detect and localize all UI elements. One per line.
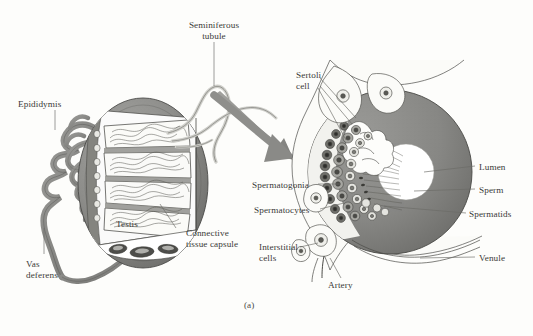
label-vas-deferens: Vas deferens <box>26 259 58 280</box>
label-sertoli-cell: Sertoli cell <box>296 70 321 91</box>
label-epididymis: Epididymis <box>18 99 61 110</box>
label-spermatocytes: Spermatocytes <box>254 205 309 216</box>
leader-venule <box>420 257 475 258</box>
label-artery: Artery <box>328 280 353 291</box>
testis-cutaway <box>86 110 196 260</box>
leader-artery <box>330 258 341 278</box>
anatomy-illustration <box>0 0 533 336</box>
label-interstitial-cells: Interstitial cells <box>259 242 298 263</box>
label-spermatids: Spermatids <box>469 209 511 220</box>
artery-vessel <box>322 256 324 278</box>
label-spermatogonia: Spermatogonia <box>252 180 309 191</box>
magnification-arrow <box>214 91 296 162</box>
label-venule: Venule <box>479 253 505 264</box>
figure-container: Seminiferous tubule Epididymis Testis Co… <box>0 0 533 336</box>
label-sperm: Sperm <box>479 185 504 196</box>
figure-caption: (a) <box>244 300 254 310</box>
label-seminiferous-tubule: Seminiferous tubule <box>160 20 268 41</box>
label-testis: Testis <box>116 219 138 230</box>
label-connective-tissue-capsule: Connective tissue capsule <box>186 228 238 249</box>
label-lumen: Lumen <box>479 162 506 173</box>
